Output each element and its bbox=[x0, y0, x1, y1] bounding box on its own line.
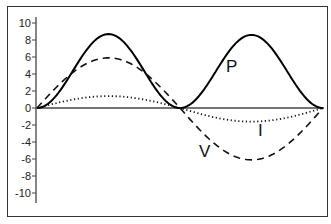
y-axis: 1086420-2-4-6-8-10 bbox=[15, 17, 36, 203]
y-tick-label: -2 bbox=[21, 119, 31, 131]
y-tick-label: 2 bbox=[25, 85, 31, 97]
series-p-line bbox=[37, 34, 323, 108]
series-v-line bbox=[37, 58, 323, 160]
label-v: V bbox=[199, 142, 211, 161]
y-tick-label: -4 bbox=[21, 136, 31, 148]
y-tick-label: 4 bbox=[25, 68, 31, 80]
label-p: P bbox=[226, 57, 237, 76]
y-tick-label: -10 bbox=[15, 187, 31, 199]
y-tick-label: 8 bbox=[25, 34, 31, 46]
y-tick-label: 6 bbox=[25, 51, 31, 63]
y-tick-label: 0 bbox=[25, 102, 31, 114]
y-tick-label: -6 bbox=[21, 153, 31, 165]
label-i: I bbox=[258, 121, 263, 140]
line-chart: 1086420-2-4-6-8-10 P I V bbox=[0, 0, 331, 224]
y-tick-label: -8 bbox=[21, 170, 31, 182]
y-tick-label: 10 bbox=[19, 17, 31, 29]
